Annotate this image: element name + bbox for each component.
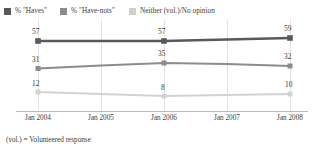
x-tick-jan-2008: Jan 2008 [277, 114, 303, 123]
plot-svg [0, 20, 313, 112]
x-tick-jan-2007: Jan 2007 [214, 114, 240, 123]
x-tick-jan-2006: Jan 2006 [151, 114, 177, 123]
legend-swatch-neither [129, 8, 136, 15]
legend-swatch-haves [4, 8, 11, 15]
value-label-haves-2006: 57 [158, 28, 165, 36]
chart-container: % "Haves" % "Have-nots" Neither (vol.)/N… [0, 0, 313, 153]
legend-label-haves: % "Haves" [15, 7, 47, 15]
value-label-neither-2004: 12 [32, 80, 39, 88]
legend-label-have-nots: % "Have-nots" [71, 7, 115, 15]
value-label-have-nots-2008: 32 [284, 53, 291, 61]
chart-legend: % "Haves" % "Have-nots" Neither (vol.)/N… [4, 4, 309, 18]
x-tick-jan-2005: Jan 2005 [88, 114, 114, 123]
value-label-neither-2008: 10 [285, 81, 292, 89]
value-label-have-nots-2006: 35 [158, 50, 165, 58]
plot-area: 57 57 59 31 35 32 12 8 10 [0, 20, 313, 112]
value-label-haves-2008: 59 [284, 25, 291, 33]
x-tick-jan-2004: Jan 2004 [25, 114, 51, 123]
legend-item-have-nots: % "Have-nots" [60, 7, 115, 15]
chart-footnote: (vol.) = Volunteered response [6, 136, 91, 145]
value-label-haves-2004: 57 [32, 28, 39, 36]
value-label-have-nots-2004: 31 [32, 56, 39, 64]
legend-item-neither: Neither (vol.)/No opinion [129, 7, 215, 15]
x-axis-labels: Jan 2004 Jan 2005 Jan 2006 Jan 2007 Jan … [0, 114, 313, 126]
legend-item-haves: % "Haves" [4, 7, 47, 15]
legend-label-neither: Neither (vol.)/No opinion [140, 7, 215, 15]
value-label-neither-2006: 8 [161, 84, 165, 92]
legend-swatch-have-nots [60, 8, 67, 15]
